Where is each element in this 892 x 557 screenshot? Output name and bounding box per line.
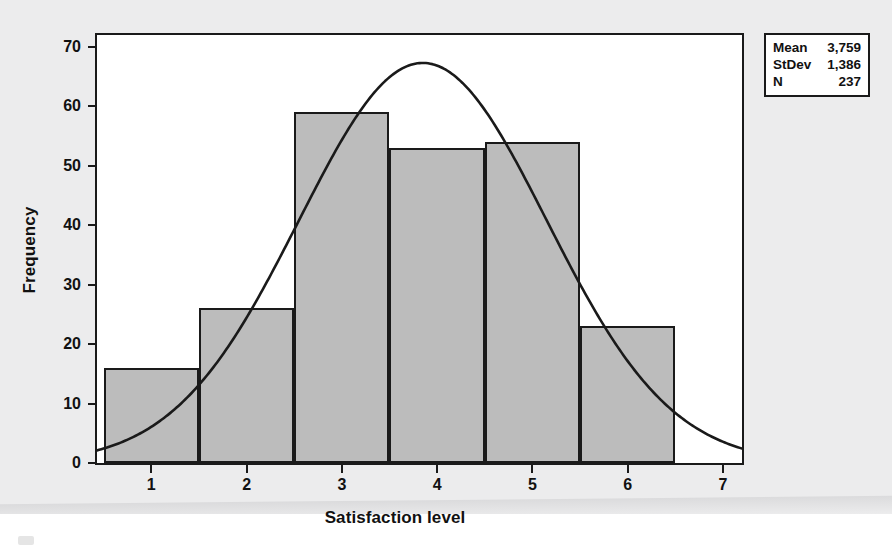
statistics-table: Mean3,759StDev1,386N237 [773, 39, 861, 90]
y-tick-label: 70 [41, 38, 81, 56]
statistics-row: StDev1,386 [773, 56, 861, 73]
statistic-value: 237 [827, 73, 861, 90]
y-tick-label: 10 [41, 395, 81, 413]
y-tick-mark [88, 224, 95, 226]
x-tick-label: 1 [136, 476, 166, 494]
statistic-name: Mean [773, 39, 827, 56]
y-tick-label: 40 [41, 216, 81, 234]
x-axis-title: Satisfaction level [0, 508, 790, 528]
y-tick-mark [88, 403, 95, 405]
x-tick-mark [722, 465, 724, 473]
x-tick-mark [150, 465, 152, 473]
x-tick-label: 5 [517, 476, 547, 494]
statistic-name: N [773, 73, 827, 90]
x-tick-label: 3 [327, 476, 357, 494]
scan-artifact [18, 536, 34, 545]
y-tick-mark [88, 343, 95, 345]
statistic-value: 1,386 [827, 56, 861, 73]
x-tick-mark [531, 465, 533, 473]
x-tick-mark [436, 465, 438, 473]
y-tick-mark [88, 462, 95, 464]
histogram-figure: Frequency Satisfaction level 01020304050… [0, 0, 892, 516]
y-tick-mark [88, 46, 95, 48]
y-tick-mark [88, 284, 95, 286]
y-tick-label: 50 [41, 157, 81, 175]
x-tick-mark [246, 465, 248, 473]
y-tick-label: 60 [41, 97, 81, 115]
x-tick-mark [341, 465, 343, 473]
normal-curve-layer [97, 35, 742, 463]
x-tick-label: 2 [232, 476, 262, 494]
y-tick-mark [88, 105, 95, 107]
y-tick-label: 20 [41, 335, 81, 353]
statistic-value: 3,759 [827, 39, 861, 56]
y-tick-label: 0 [41, 454, 81, 472]
plot-area [95, 33, 744, 465]
x-tick-label: 6 [613, 476, 643, 494]
x-tick-label: 4 [422, 476, 452, 494]
x-tick-mark [627, 465, 629, 473]
y-tick-label: 30 [41, 276, 81, 294]
statistics-legend: Mean3,759StDev1,386N237 [764, 33, 870, 97]
y-tick-mark [88, 165, 95, 167]
normal-curve [97, 35, 742, 463]
y-axis-title: Frequency [20, 190, 40, 310]
statistics-row: N237 [773, 73, 861, 90]
scanned-page: Frequency Satisfaction level 01020304050… [0, 0, 892, 557]
x-tick-label: 7 [708, 476, 738, 494]
statistic-name: StDev [773, 56, 827, 73]
statistics-row: Mean3,759 [773, 39, 861, 56]
